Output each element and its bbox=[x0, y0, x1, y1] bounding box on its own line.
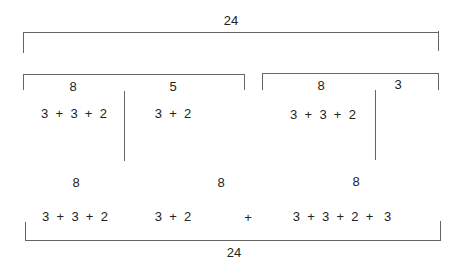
right-divider bbox=[375, 90, 376, 160]
right-group-label-8: 8 bbox=[317, 79, 324, 93]
bottom-sequence-1: 3 + 3 + 2 bbox=[42, 210, 108, 224]
bottom-label-2: 8 bbox=[217, 176, 224, 190]
bottom-sequence-3: 3 + 3 + 2 + 3 bbox=[293, 210, 392, 224]
right-group-label-3: 3 bbox=[394, 78, 401, 92]
grouping-2: 3 + 2 bbox=[155, 107, 192, 121]
top-total-label: 24 bbox=[224, 14, 238, 28]
left-group-label-5: 5 bbox=[169, 80, 176, 94]
bottom-sequence-2: 3 + 2 bbox=[155, 210, 192, 224]
bottom-label-3: 8 bbox=[352, 175, 359, 189]
left-divider bbox=[124, 91, 125, 161]
left-group-label-8: 8 bbox=[69, 80, 76, 94]
grouping-1: 3 + 3 + 2 bbox=[41, 107, 107, 121]
bottom-plus: + bbox=[244, 211, 252, 225]
grouping-3: 3 + 3 + 2 bbox=[290, 108, 356, 122]
bottom-total-label: 24 bbox=[227, 246, 241, 260]
bottom-label-1: 8 bbox=[72, 176, 79, 190]
